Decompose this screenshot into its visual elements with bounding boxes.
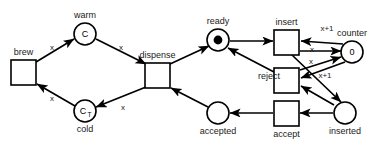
arc-label-counter-to-insert: x+1 — [320, 24, 334, 33]
arc-label-warm-to-dispense: x — [119, 43, 123, 52]
arc-inserted-to-reject — [301, 86, 334, 105]
transition-label-brew: brew — [14, 47, 34, 57]
arc-reject-to-ready — [228, 48, 274, 72]
place-label-inserted: inserted — [329, 126, 361, 136]
transition-label-insert: insert — [275, 17, 298, 27]
transition-insert[interactable] — [274, 30, 299, 55]
arc-accepted-to-dispense — [171, 88, 208, 107]
labels-layer: xxxxx+1xx+1xbrewdispenseinsertrejectacce… — [14, 10, 367, 139]
petri-net-canvas: CCT0 xxxxx+1xx+1xbrewdispenseinsertrejec… — [0, 0, 374, 148]
arc-label-cold-to-brew: x — [50, 94, 54, 103]
place-label-warm: warm — [73, 10, 96, 20]
transition-dispense[interactable] — [145, 63, 170, 88]
transition-brew[interactable] — [11, 60, 36, 85]
arc-label-counter-to-reject: x+1 — [318, 71, 332, 80]
arc-label-dispense-to-cold: x — [121, 103, 125, 112]
place-inserted[interactable] — [334, 102, 356, 124]
place-accepted[interactable] — [207, 102, 229, 124]
arc-brew-to-warm — [36, 39, 74, 62]
petri-net-diagram: CCT0 xxxxx+1xx+1xbrewdispenseinsertrejec… — [0, 0, 374, 148]
arc-cold-to-brew — [37, 84, 75, 106]
arc-label-brew-to-warm: x — [50, 43, 54, 52]
arc-label-insert-to-counter: x — [310, 45, 314, 54]
transition-label-reject: reject — [258, 71, 281, 81]
transition-label-accept: accept — [273, 129, 300, 139]
token-ready — [214, 36, 223, 45]
place-inner-label-cold: C — [80, 106, 87, 116]
place-inner-label-counter: 0 — [349, 47, 354, 57]
place-label-counter: counter — [337, 28, 367, 38]
place-inner-label-warm: C — [82, 29, 89, 39]
arc-dispense-to-ready — [170, 46, 209, 64]
place-inner-subscript-cold: T — [88, 111, 92, 118]
place-label-accepted: accepted — [200, 126, 237, 136]
place-label-ready: ready — [207, 16, 230, 26]
arc-label-reject-to-counter: x — [309, 57, 313, 66]
transition-accept[interactable] — [274, 101, 299, 126]
arc-counter-to-insert — [301, 41, 343, 44]
place-label-cold: cold — [77, 124, 94, 134]
transition-label-dispense: dispense — [139, 50, 175, 60]
